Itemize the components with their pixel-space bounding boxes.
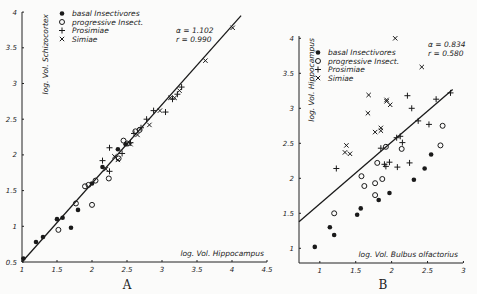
marker-open-circle xyxy=(359,174,364,179)
x-tick-label: 1.5 xyxy=(51,266,63,274)
stat-r: r = 0.580 xyxy=(428,49,464,58)
y-tick-label: 1.5 xyxy=(283,210,295,218)
chart-panel-a: 11.522.533.544.50.511.522.533.54log. Vol… xyxy=(6,9,273,292)
marker-filled-circle xyxy=(60,11,65,16)
marker-open-circle xyxy=(316,59,321,64)
marker-filled-circle xyxy=(376,198,381,203)
marker-filled-circle xyxy=(60,215,65,220)
marker-open-circle xyxy=(106,176,111,181)
y-tick-label: 3 xyxy=(290,105,294,113)
y-axis-title: log. Vol. Hippocampus xyxy=(307,38,316,122)
marker-filled-circle xyxy=(76,208,81,213)
x-tick-label: 4 xyxy=(230,266,234,274)
marker-filled-circle xyxy=(55,217,60,222)
marker-filled-circle xyxy=(422,166,427,171)
y-tick-label: 2 xyxy=(13,151,18,159)
x-tick-label: 2.5 xyxy=(422,267,434,275)
x-tick-label: 3.5 xyxy=(191,266,203,274)
marker-filled-circle xyxy=(358,206,363,211)
y-tick-label: 3.5 xyxy=(6,44,18,52)
x-tick-label: 2 xyxy=(90,266,95,274)
marker-filled-circle xyxy=(116,147,121,152)
marker-open-circle xyxy=(56,227,61,232)
panel-label: B xyxy=(379,278,388,292)
stat-alpha: α = 1.102 xyxy=(176,26,214,35)
y-tick-label: 2.5 xyxy=(283,140,295,148)
marker-open-circle xyxy=(90,202,95,207)
marker-filled-circle xyxy=(429,152,434,157)
x-tick-label: 3 xyxy=(461,267,465,275)
panel-label: A xyxy=(122,278,132,292)
marker-open-circle xyxy=(373,181,378,186)
marker-filled-circle xyxy=(34,240,39,245)
marker-open-circle xyxy=(438,143,443,148)
x-tick-label: 2 xyxy=(389,267,394,275)
y-tick-label: 1.5 xyxy=(6,187,18,195)
x-tick-label: 3 xyxy=(160,266,164,274)
regression-line xyxy=(22,16,241,262)
y-tick-label: 3 xyxy=(13,80,17,88)
marker-filled-circle xyxy=(21,256,26,261)
marker-filled-circle xyxy=(312,245,317,250)
marker-open-circle xyxy=(60,20,65,25)
marker-open-circle xyxy=(380,177,385,182)
x-axis-title: log. Vol. Hippocampus xyxy=(180,249,264,258)
x-tick-label: 1.5 xyxy=(350,267,362,275)
stat-r: r = 0.990 xyxy=(176,35,212,44)
y-tick-label: 2 xyxy=(290,175,295,183)
y-tick-label: 1 xyxy=(290,245,294,253)
y-tick-label: 3.5 xyxy=(283,70,295,78)
marker-open-circle xyxy=(373,193,378,198)
marker-filled-circle xyxy=(316,50,321,55)
marker-filled-circle xyxy=(41,235,46,240)
marker-open-circle xyxy=(362,184,367,189)
stat-alpha: α = 0.834 xyxy=(428,40,466,49)
marker-open-circle xyxy=(440,123,445,128)
figure: 11.522.533.544.50.511.522.533.54log. Vol… xyxy=(0,0,477,294)
x-tick-label: 2.5 xyxy=(121,266,133,274)
marker-filled-circle xyxy=(332,233,337,238)
legend-label: Simiae xyxy=(72,35,98,44)
legend-label: Simiae xyxy=(328,74,354,83)
y-tick-label: 4 xyxy=(290,35,294,43)
y-tick-label: 1 xyxy=(13,223,17,231)
y-tick-label: 4 xyxy=(13,9,17,17)
x-tick-label: 4.5 xyxy=(261,266,273,274)
marker-filled-circle xyxy=(387,191,392,196)
x-axis-title: log. Vol. Bulbus olfactorius xyxy=(358,250,458,259)
marker-filled-circle xyxy=(355,212,360,217)
marker-open-circle xyxy=(399,146,404,151)
chart-panel-b: 11.522.5311.522.533.54log. Vol. Bulbus o… xyxy=(283,35,466,292)
marker-open-circle xyxy=(332,211,337,216)
x-tick-label: 1 xyxy=(318,267,322,275)
marker-filled-circle xyxy=(69,225,74,230)
marker-filled-circle xyxy=(328,225,333,230)
y-axis-title: log. Vol. Schizocortex xyxy=(41,13,50,94)
marker-open-circle xyxy=(375,160,380,165)
y-tick-label: 2.5 xyxy=(6,116,18,124)
marker-filled-circle xyxy=(412,177,417,182)
y-tick-label: 0.5 xyxy=(6,259,18,267)
x-tick-label: 1 xyxy=(20,266,24,274)
